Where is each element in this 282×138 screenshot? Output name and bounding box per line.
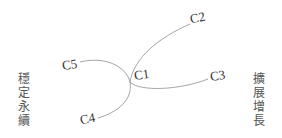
right-vertical-label: 擴展增長 — [252, 72, 266, 128]
node-c3: C3 — [209, 68, 226, 83]
edge-c1-c4 — [98, 82, 130, 118]
node-c5: C5 — [61, 57, 78, 72]
left-vertical-label: 穩定永續 — [17, 72, 31, 128]
diagram-canvas: C1 C2 C3 C4 C5 穩定永續 擴展增長 — [0, 0, 282, 138]
edge-c5-c1 — [80, 60, 130, 82]
node-c1: C1 — [133, 67, 150, 82]
node-c2: C2 — [189, 10, 207, 26]
node-c4: C4 — [79, 111, 97, 127]
